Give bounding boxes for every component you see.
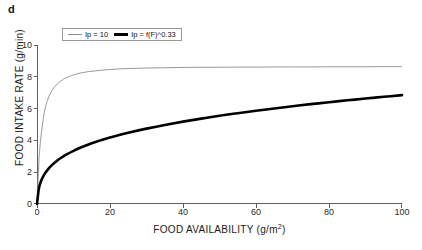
x-tick-label: 20	[105, 207, 115, 217]
y-axis-title-text: FOOD INTAKE RATE (g/min)	[14, 29, 25, 166]
x-axis-title-close: )	[282, 224, 286, 235]
y-axis-title: FOOD INTAKE RATE (g/min)	[14, 13, 25, 183]
x-tick-label: 80	[324, 207, 334, 217]
x-tick-label: 0	[34, 207, 39, 217]
x-tick-label: 100	[394, 207, 409, 217]
x-tick-label: 40	[178, 207, 188, 217]
figure-panel-d: d Ip = 10 Ip = f(F)^0.33 0246810 0204060…	[0, 0, 422, 250]
x-axis-title-text: FOOD AVAILABILITY (g/m	[153, 224, 277, 235]
x-tick-label: 60	[251, 207, 261, 217]
x-axis-title: FOOD AVAILABILITY (g/m2)	[37, 224, 402, 235]
x-tick-label-group: 020406080100	[0, 0, 422, 250]
